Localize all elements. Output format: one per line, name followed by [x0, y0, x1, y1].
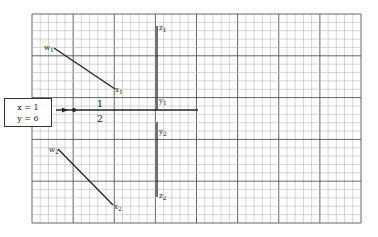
- diagram-canvas: x = 1 y = 6 1 2 w1 x1 w2 x2 z1 y1 y2 z2: [0, 0, 378, 237]
- input-box-line2: y = 6: [16, 114, 38, 123]
- label-y2: y2: [158, 128, 167, 137]
- fraction-numerator: 1: [97, 98, 103, 109]
- segment-w2-x2: [58, 149, 113, 205]
- label-y1: y1: [158, 97, 167, 106]
- label-z2: z2: [159, 192, 167, 201]
- label-x2: x2: [114, 203, 122, 212]
- label-w1: w1: [44, 44, 54, 53]
- label-x1: x1: [115, 86, 123, 95]
- input-box-line1: x = 1: [17, 103, 38, 112]
- input-node-dot: [72, 108, 76, 112]
- label-z1: z1: [159, 24, 167, 33]
- label-w2: w2: [49, 146, 59, 155]
- graph-paper-grid: [32, 14, 361, 223]
- fraction-denominator: 2: [97, 113, 103, 124]
